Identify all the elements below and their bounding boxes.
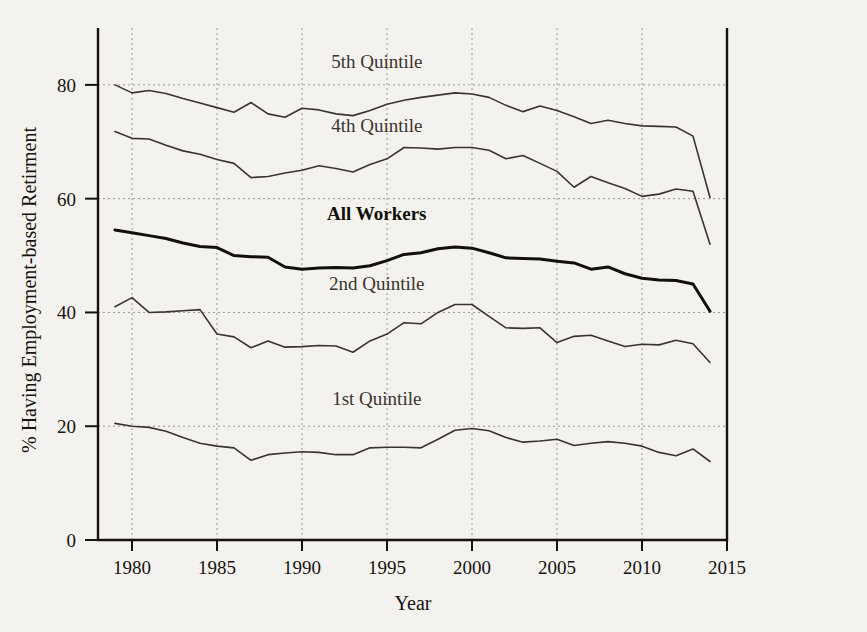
series-label-4: 1st Quintile [332, 388, 421, 409]
x-tick-label: 2015 [708, 557, 746, 578]
y-tick-label: 60 [57, 189, 76, 210]
x-tick-label: 2010 [623, 557, 661, 578]
x-tick-label: 2000 [453, 557, 491, 578]
y-tick-label: 20 [57, 416, 76, 437]
series-label-3: 2nd Quintile [329, 273, 425, 294]
x-tick-label: 1990 [283, 557, 321, 578]
y-tick-label: 80 [57, 75, 76, 96]
series-label-0: 5th Quintile [331, 51, 422, 72]
y-tick-label: 0 [67, 530, 77, 551]
series-label-2: All Workers [327, 203, 426, 224]
x-tick-label: 1985 [198, 557, 236, 578]
series-label-1: 4th Quintile [331, 115, 422, 136]
retirement-coverage-line-chart: 1980198519901995200020052010201502040608… [0, 0, 867, 632]
x-tick-label: 2005 [538, 557, 576, 578]
y-axis-label: % Having Employment-based Retirment [18, 127, 41, 453]
chart-figure: 1980198519901995200020052010201502040608… [0, 0, 867, 632]
y-tick-label: 40 [57, 302, 76, 323]
x-tick-label: 1980 [113, 557, 151, 578]
x-tick-label: 1995 [368, 557, 406, 578]
x-axis-label: Year [395, 592, 432, 614]
